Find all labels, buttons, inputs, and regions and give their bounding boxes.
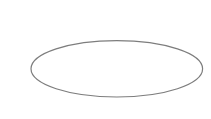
diagram-canvas (0, 0, 211, 119)
ellipse-shape[interactable] (31, 41, 203, 97)
